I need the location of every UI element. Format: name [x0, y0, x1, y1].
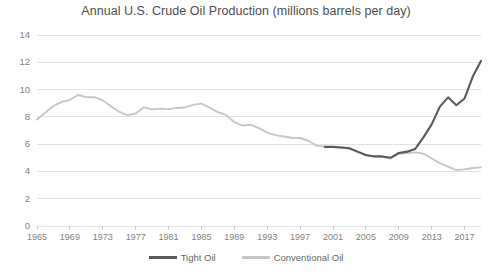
y-axis-tick-label: 8: [8, 112, 30, 122]
legend-item[interactable]: Tight Oil: [149, 252, 216, 263]
legend-item[interactable]: Conventional Oil: [242, 252, 344, 263]
y-axis-tick-label: 2: [8, 194, 30, 204]
legend-label: Conventional Oil: [274, 252, 344, 263]
chart-legend: Tight OilConventional Oil: [0, 252, 492, 263]
y-axis-tick-label: 0: [8, 221, 30, 231]
gridlines: [37, 35, 481, 226]
legend-swatch: [149, 256, 177, 259]
x-axis-tick-label: 2017: [445, 232, 485, 242]
y-axis-tick-label: 14: [8, 30, 30, 40]
y-axis-tick-label: 4: [8, 166, 30, 176]
legend-swatch: [242, 256, 270, 259]
y-axis-tick-label: 6: [8, 139, 30, 149]
series-line-conventional-oil: [37, 95, 481, 170]
series-lines: [37, 61, 481, 170]
y-axis-tick-label: 12: [8, 57, 30, 67]
legend-label: Tight Oil: [181, 252, 216, 263]
x-axis-ticks: [37, 226, 465, 230]
plot-area: 02468101214 1965196919731977198119851989…: [0, 0, 492, 279]
chart-container: Annual U.S. Crude Oil Production (millio…: [0, 0, 492, 279]
series-line-tight-oil: [325, 61, 481, 158]
y-axis-tick-label: 10: [8, 85, 30, 95]
